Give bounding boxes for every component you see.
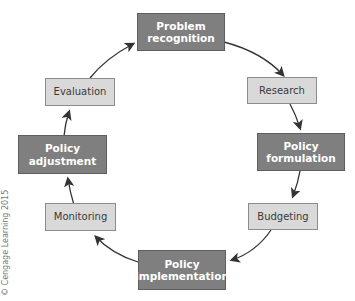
step-evaluation: Evaluation <box>45 78 115 106</box>
step-label: Budgeting <box>257 211 308 223</box>
step-policy-implementation: Policy implementation <box>138 250 226 290</box>
step-label: Evaluation <box>54 86 107 98</box>
step-label: Research <box>259 85 305 97</box>
step-label: Monitoring <box>54 211 107 223</box>
arrow-adjustment-to-evaluation <box>64 112 69 136</box>
arrow-formulation-to-budgeting <box>293 171 300 196</box>
step-problem-recognition: Problem recognition <box>137 13 225 51</box>
step-label-line2: recognition <box>147 32 215 44</box>
arrow-problem-to-research <box>224 42 283 75</box>
step-policy-adjustment: Policy adjustment <box>18 135 107 174</box>
step-label-line1: Problem <box>156 20 205 32</box>
arrow-evaluation-to-problem <box>90 44 133 78</box>
step-label-line2: formulation <box>266 152 335 164</box>
step-label-line2: adjustment <box>29 155 97 167</box>
step-monitoring: Monitoring <box>45 203 116 231</box>
arrow-budgeting-to-implementation <box>232 230 271 260</box>
arrow-implementation-to-monitoring <box>96 237 138 262</box>
step-label-line1: Policy <box>45 142 80 154</box>
step-label-line2: implementation <box>135 270 229 282</box>
step-label-line1: Policy <box>164 258 199 270</box>
arrow-monitoring-to-adjustment <box>68 179 74 205</box>
step-budgeting: Budgeting <box>248 203 318 230</box>
step-policy-formulation: Policy formulation <box>257 133 345 171</box>
step-label-line1: Policy <box>283 140 318 152</box>
copyright-notice: © Cengage Learning 2015 <box>1 190 10 296</box>
step-research: Research <box>247 77 317 104</box>
arrow-research-to-formulation <box>290 104 300 128</box>
